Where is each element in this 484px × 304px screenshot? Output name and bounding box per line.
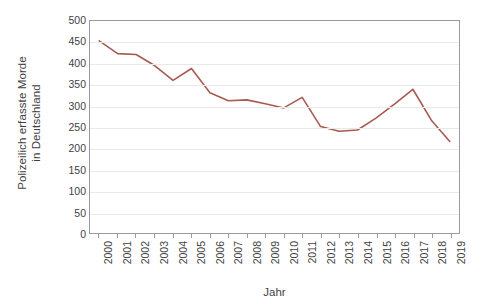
y-tick-label: 100: [56, 186, 86, 197]
series-polyline: [99, 41, 450, 141]
x-tick-mark: [210, 234, 211, 238]
chart-container: Polizeilich erfasste Morde in Deutschlan…: [0, 0, 484, 304]
x-tick-mark: [358, 234, 359, 238]
x-tick-mark: [98, 234, 99, 238]
x-tick-label: 2017: [419, 241, 430, 287]
x-tick-mark: [191, 234, 192, 238]
x-tick-label: 2005: [196, 241, 207, 287]
x-tick-label: 2009: [270, 241, 281, 287]
x-tick-mark: [432, 234, 433, 238]
y-tick-label: 400: [56, 58, 86, 69]
x-tick-label: 2013: [344, 241, 355, 287]
x-tick-label: 2010: [289, 241, 300, 287]
gridline: [90, 85, 459, 86]
x-tick-label: 2004: [178, 241, 189, 287]
y-tick-label: 350: [56, 79, 86, 90]
y-tick-label: 450: [56, 36, 86, 47]
plot-area: [89, 20, 460, 234]
gridline: [90, 128, 459, 129]
gridline: [90, 107, 459, 108]
x-tick-mark: [339, 234, 340, 238]
x-tick-mark: [302, 234, 303, 238]
x-tick-label: 2008: [252, 241, 263, 287]
x-tick-mark: [395, 234, 396, 238]
gridline: [90, 214, 459, 215]
x-tick-mark: [154, 234, 155, 238]
gridline: [90, 192, 459, 193]
x-tick-label: 2000: [103, 241, 114, 287]
y-tick-label: 250: [56, 122, 86, 133]
y-axis-title: Polizeilich erfasste Morde in Deutschlan…: [0, 6, 58, 240]
line-series-polizeilich-erfasste-morde: [90, 21, 459, 233]
x-axis-title: Jahr: [89, 286, 460, 299]
gridline: [90, 42, 459, 43]
x-tick-mark: [414, 234, 415, 238]
x-tick-mark: [173, 234, 174, 238]
x-tick-mark: [135, 234, 136, 238]
x-tick-label: 2002: [140, 241, 151, 287]
y-tick-label: 500: [56, 15, 86, 26]
y-tick-label: 300: [56, 100, 86, 111]
x-tick-label: 2012: [326, 241, 337, 287]
x-tick-label: 2014: [363, 241, 374, 287]
x-tick-mark: [117, 234, 118, 238]
y-tick-label: 50: [56, 207, 86, 218]
x-tick-mark: [228, 234, 229, 238]
x-tick-mark: [247, 234, 248, 238]
y-tick-label: 150: [56, 165, 86, 176]
x-tick-label: 2016: [400, 241, 411, 287]
x-tick-mark: [265, 234, 266, 238]
y-tick-label: 200: [56, 143, 86, 154]
y-tick-label: 0: [56, 229, 86, 240]
gridline: [90, 64, 459, 65]
y-axis-title-line-1: Polizeilich erfasste Morde: [15, 56, 30, 190]
gridline: [90, 149, 459, 150]
x-tick-label: 2001: [122, 241, 133, 287]
x-tick-label: 2011: [307, 241, 318, 287]
x-tick-label: 2019: [456, 241, 467, 287]
x-tick-label: 2006: [215, 241, 226, 287]
gridline: [90, 171, 459, 172]
x-tick-mark: [321, 234, 322, 238]
x-tick-label: 2015: [382, 241, 393, 287]
x-tick-mark: [284, 234, 285, 238]
y-axis-title-line-2: in Deutschland: [29, 56, 44, 190]
y-axis-tick-labels: 050100150200250300350400450500: [56, 0, 86, 304]
x-tick-label: 2003: [159, 241, 170, 287]
x-tick-label: 2007: [233, 241, 244, 287]
x-tick-mark: [451, 234, 452, 238]
x-tick-label: 2018: [437, 241, 448, 287]
x-tick-mark: [377, 234, 378, 238]
